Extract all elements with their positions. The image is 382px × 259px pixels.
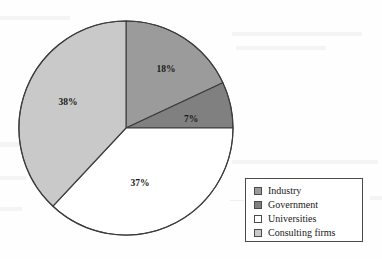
slice-label-industry: 18% [157,64,176,74]
legend-label-industry: Industry [268,185,301,196]
legend-item-consulting-firms[interactable]: Consulting firms [254,226,362,239]
legend-swatch-government [254,201,262,209]
slice-label-universities: 37% [131,178,150,188]
legend-label-universities: Universities [268,213,316,224]
legend-swatch-consulting-firms [254,229,262,237]
legend-label-government: Government [268,199,318,210]
legend-swatch-industry [254,187,262,195]
slice-label-consulting-firms: 38% [59,97,78,107]
legend-item-industry[interactable]: Industry [254,184,362,197]
chart-page: 18% 7% 37% 38% Industry Government Unive… [0,0,382,259]
legend-swatch-universities [254,215,262,223]
legend-item-universities[interactable]: Universities [254,212,362,225]
chart-legend: Industry Government Universities Consult… [245,178,363,242]
legend-label-consulting-firms: Consulting firms [268,227,336,238]
legend-item-government[interactable]: Government [254,198,362,211]
slice-label-government: 7% [184,114,198,124]
